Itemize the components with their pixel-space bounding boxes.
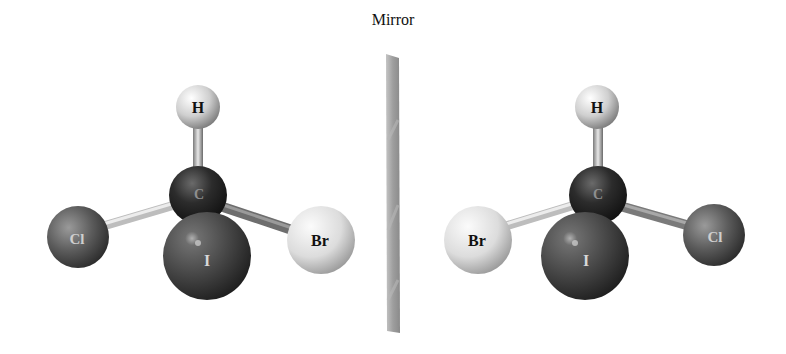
atom-h: H xyxy=(575,85,619,129)
svg-text:C: C xyxy=(593,187,603,202)
svg-text:Cl: Cl xyxy=(708,229,723,245)
bond-c-cl xyxy=(100,204,178,227)
atom-h: H xyxy=(176,85,220,129)
atom-i: I xyxy=(163,212,251,300)
svg-text:I: I xyxy=(583,252,589,269)
atom-br: Br xyxy=(444,206,512,274)
right-enantiomer: H C Br Cl I xyxy=(444,85,745,300)
svg-text:Br: Br xyxy=(468,232,486,249)
atom-br: Br xyxy=(287,206,355,274)
svg-text:I: I xyxy=(204,252,210,269)
bond-c-cl xyxy=(620,206,690,226)
svg-text:H: H xyxy=(591,99,604,116)
svg-text:Cl: Cl xyxy=(70,231,85,247)
svg-text:H: H xyxy=(192,99,205,116)
mirror-plane xyxy=(386,54,400,333)
atom-i: I xyxy=(541,212,629,300)
mirror-label: Mirror xyxy=(358,11,428,29)
figure-canvas: H C Cl Br I xyxy=(0,0,786,354)
atom-cl: Cl xyxy=(47,206,109,268)
atom-cl: Cl xyxy=(683,204,745,266)
svg-text:C: C xyxy=(194,187,204,202)
svg-text:Br: Br xyxy=(311,232,329,249)
chirality-mirror-figure: Mirror xyxy=(0,0,786,354)
left-enantiomer: H C Cl Br I xyxy=(47,85,355,300)
